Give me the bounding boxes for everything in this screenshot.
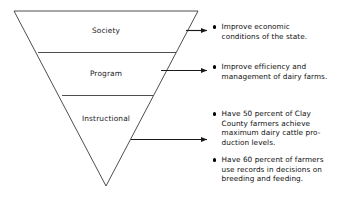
- objective-society: Improve economic conditions of the state…: [213, 22, 349, 41]
- objective-instructional-2: Have 60 percent of farmers use records i…: [213, 155, 353, 184]
- tier-label-program: Program: [90, 69, 122, 78]
- inverted-triangle-diagram: Society Program Instructional Improve ec…: [0, 0, 353, 200]
- bullet-icon: [213, 65, 216, 68]
- tier-label-instructional: Instructional: [82, 114, 130, 123]
- inverted-triangle-outline: [14, 11, 198, 186]
- bullet-icon: [213, 25, 216, 28]
- objective-instructional-1-text: Have 50 percent of Clay County farmers a…: [222, 109, 321, 147]
- objective-program: Improve efficiency and management of dai…: [213, 62, 349, 81]
- bullet-icon: [213, 112, 216, 115]
- bullet-icon: [213, 158, 216, 161]
- objective-program-text: Improve efficiency and management of dai…: [222, 62, 328, 81]
- objective-instructional-2-text: Have 60 percent of farmers use records i…: [222, 155, 324, 184]
- objective-instructional-1: Have 50 percent of Clay County farmers a…: [213, 109, 349, 147]
- objective-society-text: Improve economic conditions of the state…: [222, 22, 308, 41]
- tier-label-society: Society: [92, 26, 120, 35]
